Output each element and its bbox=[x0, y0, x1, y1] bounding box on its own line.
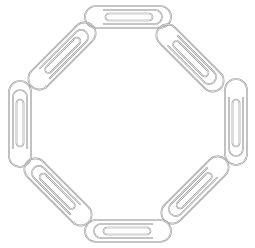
paperclip bbox=[24, 18, 100, 94]
paperclip bbox=[152, 20, 228, 96]
paperclip bbox=[20, 154, 96, 230]
paperclip bbox=[85, 6, 171, 28]
paperclip bbox=[85, 220, 171, 242]
paperclip bbox=[9, 81, 31, 167]
paperclip bbox=[225, 79, 247, 165]
paperclip-ring bbox=[0, 0, 255, 248]
paperclip-ring-image bbox=[0, 0, 255, 248]
paperclip bbox=[157, 152, 233, 228]
